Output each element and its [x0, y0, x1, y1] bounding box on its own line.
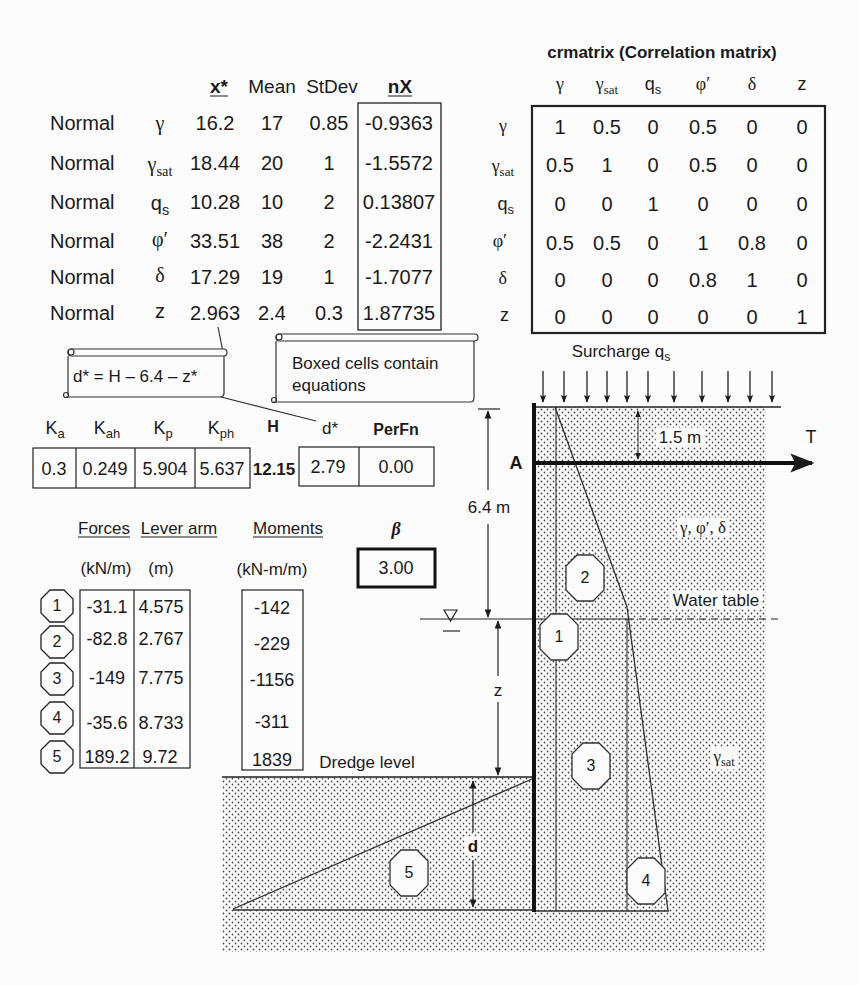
lever-cell: 9.72: [142, 748, 177, 766]
header-nx: nX: [388, 77, 412, 96]
matrix-cell: 0: [554, 270, 565, 290]
ka-value: 0.3: [41, 460, 66, 478]
forces-unit: (kN/m): [81, 560, 132, 577]
header-x-star: x*: [210, 77, 228, 96]
forces-header: Forces: [78, 520, 130, 537]
dist-cell: Normal: [50, 153, 114, 173]
mean-cell: 10: [261, 192, 283, 212]
kph-value: 5.637: [199, 460, 244, 478]
variable-symbol: γ: [156, 113, 165, 138]
h-value: 12.15: [253, 461, 296, 478]
matrix-cell: 0.5: [593, 233, 621, 253]
col-header: γsat: [596, 75, 618, 98]
water-depth-label: 6.4 m: [468, 499, 511, 516]
lever-cell: 2.767: [138, 630, 183, 648]
ka-header: Ka: [45, 419, 64, 442]
variable-symbol: δ: [155, 265, 164, 290]
kah-value: 0.249: [82, 460, 127, 478]
x-star-cell: 16.2: [196, 113, 235, 133]
nx-cell: 1.87735: [363, 303, 435, 323]
lever-cell: 7.775: [138, 669, 183, 687]
mean-cell: 2.4: [258, 303, 286, 323]
kp-header: Kp: [153, 419, 172, 442]
force-cell: -82.8: [86, 630, 127, 648]
graphics-layer: [0, 0, 859, 985]
surcharge-arrows: [543, 371, 772, 402]
row-header: z: [500, 306, 509, 329]
dist-cell: Normal: [50, 267, 114, 287]
matrix-cell: 1: [796, 307, 807, 327]
matrix-cell: 0: [796, 270, 807, 290]
force-cell: -35.6: [86, 714, 127, 732]
matrix-cell: 0: [746, 194, 757, 214]
nx-cell: -1.7077: [365, 267, 433, 287]
matrix-cell: 1: [697, 233, 708, 253]
matrix-cell: 0.8: [689, 270, 717, 290]
lever-arm-header: Lever arm: [141, 520, 218, 537]
moment-cell: 1839: [252, 751, 292, 769]
water-table-label: Water table: [670, 591, 762, 610]
variable-symbol: z: [155, 301, 165, 326]
force-cell: -31.1: [86, 598, 127, 616]
matrix-cell: 0: [647, 233, 658, 253]
zone-id: 4: [53, 710, 62, 726]
col-header: γ: [556, 75, 564, 98]
force-cell: -149: [89, 669, 125, 687]
dist-cell: Normal: [50, 231, 114, 251]
matrix-cell: 0: [746, 117, 757, 137]
row-header: γ: [499, 117, 507, 140]
upper-soil-properties: γ, φ′, δ: [677, 518, 729, 537]
mean-cell: 19: [261, 267, 283, 287]
moments-unit: (kN-m/m): [237, 561, 308, 578]
variable-symbol: φ′: [152, 229, 168, 254]
stdev-cell: 2: [323, 192, 334, 212]
d-dimension-label: d: [465, 837, 481, 856]
zone-label: 5: [405, 865, 414, 881]
zone-label: 3: [587, 758, 596, 774]
stdev-cell: 0.3: [315, 303, 343, 323]
dist-cell: Normal: [50, 192, 114, 212]
kph-header: Kph: [208, 419, 234, 442]
kah-header: Kah: [94, 419, 120, 442]
x-star-cell: 18.44: [190, 153, 240, 173]
correlation-matrix-box: [532, 106, 825, 333]
lever-cell: 4.575: [138, 598, 183, 616]
stdev-cell: 2: [323, 231, 334, 251]
matrix-cell: 0.8: [738, 233, 766, 253]
perfn-value: 0.00: [378, 458, 413, 476]
stdev-cell: 0.85: [310, 113, 349, 133]
col-header: qs: [645, 75, 662, 98]
matrix-cell: 1: [554, 117, 565, 137]
zone-id: 1: [53, 598, 62, 614]
mean-cell: 20: [261, 153, 283, 173]
matrix-cell: 0: [647, 270, 658, 290]
variable-symbol: γsat: [148, 154, 173, 179]
zone-id: 2: [53, 634, 62, 650]
col-header: δ: [748, 75, 756, 98]
matrix-cell: 0: [796, 117, 807, 137]
matrix-cell: 0.5: [689, 117, 717, 137]
nx-cell: -1.5572: [365, 153, 433, 173]
moment-cell: -229: [254, 635, 290, 653]
matrix-cell: 1: [647, 194, 658, 214]
d-star-equation-note: d* = H – 6.4 – z*: [73, 368, 197, 385]
x-star-cell: 10.28: [190, 192, 240, 212]
header-mean: Mean: [248, 77, 296, 96]
matrix-cell: 0: [796, 233, 807, 253]
zone-id: 3: [53, 671, 62, 687]
beta-value: 3.00: [378, 559, 413, 577]
tie-force-label: T: [806, 428, 817, 446]
row-header: φ′: [493, 232, 507, 255]
variable-symbol: qs: [151, 193, 169, 218]
matrix-cell: 0: [796, 155, 807, 175]
matrix-cell: 0: [697, 194, 708, 214]
x-star-cell: 33.51: [190, 231, 240, 251]
correlation-matrix-title: crmatrix (Correlation matrix): [547, 44, 777, 61]
nx-cell: -2.2431: [365, 231, 433, 251]
col-header: φ′: [696, 75, 710, 98]
x-star-cell: 2.963: [190, 303, 240, 323]
matrix-cell: 0: [647, 117, 658, 137]
matrix-cell: 0.5: [593, 117, 621, 137]
row-header: δ: [499, 269, 507, 292]
zone-label: 4: [642, 873, 651, 889]
